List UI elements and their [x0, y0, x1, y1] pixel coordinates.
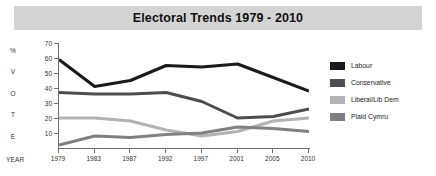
x-tick-mark: [308, 149, 309, 153]
y-tick-label: 70: [45, 40, 52, 47]
legend-item[interactable]: Plaid Cymru: [330, 108, 430, 125]
x-tick-mark: [129, 149, 130, 153]
x-tick-label: 1979: [51, 155, 65, 162]
legend-item-label: Conservative: [351, 79, 391, 86]
x-tick-mark: [237, 149, 238, 153]
legend-swatch-icon: [330, 113, 345, 121]
y-tick-label: 60: [45, 55, 52, 62]
x-tick-mark: [201, 149, 202, 153]
chart-figure: Electoral Trends 1979 - 2010 % V O T E Y…: [0, 0, 436, 176]
x-tick-mark: [272, 149, 273, 153]
legend-item[interactable]: Liberal/Lib Dem: [330, 91, 430, 108]
legend-swatch-icon: [330, 96, 345, 104]
x-tick-label: 2001: [229, 155, 243, 162]
legend-item-label: Labour: [351, 62, 372, 69]
y-tick-label: 10: [45, 130, 52, 137]
x-tick-mark: [94, 149, 95, 153]
legend-swatch-icon: [330, 79, 345, 87]
x-axis-title: YEAR: [6, 156, 25, 163]
legend-item-label: Plaid Cymru: [351, 113, 388, 120]
plot-area: [59, 43, 309, 148]
series-line-labour: [59, 60, 309, 92]
y-tick-label: 20: [45, 115, 52, 122]
x-tick-label: 1997: [194, 155, 208, 162]
x-tick-label: 1992: [158, 155, 172, 162]
y-tick-label: 40: [45, 85, 52, 92]
series-line-plaid-cymru: [59, 127, 309, 145]
y-tick-label: 50: [45, 70, 52, 77]
x-tick-label: 2010: [301, 155, 315, 162]
x-tick-mark: [165, 149, 166, 153]
legend-item[interactable]: Labour: [330, 57, 430, 74]
legend: LabourConservativeLiberal/Lib DemPlaid C…: [330, 57, 430, 125]
legend-item[interactable]: Conservative: [330, 74, 430, 91]
series-line-conservative: [59, 93, 309, 119]
legend-item-label: Liberal/Lib Dem: [351, 96, 399, 103]
x-tick-label: 1983: [86, 155, 100, 162]
y-axis-ticks: 10203040506070: [0, 43, 58, 149]
title-banner: Electoral Trends 1979 - 2010: [14, 6, 422, 30]
x-tick-label: 1987: [122, 155, 136, 162]
legend-swatch-icon: [330, 62, 345, 70]
x-tick-mark: [58, 149, 59, 153]
series-lines: [59, 43, 309, 148]
page-title: Electoral Trends 1979 - 2010: [133, 11, 303, 25]
x-axis-ticks: 19791983198719921997200120052010: [58, 149, 310, 167]
x-tick-label: 2005: [265, 155, 279, 162]
y-tick-label: 30: [45, 100, 52, 107]
